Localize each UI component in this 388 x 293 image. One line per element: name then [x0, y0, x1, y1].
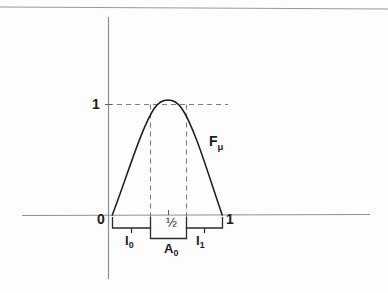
- axis-label-origin-zero: 0: [97, 212, 105, 226]
- page-top-rule: [0, 7, 388, 9]
- interval-label-A0-subscript: 0: [173, 248, 178, 258]
- interval-label-I0: I0: [125, 234, 134, 247]
- interval-label-A0-base: A: [164, 241, 173, 256]
- interval-label-A0: A0: [164, 242, 178, 255]
- curve-f-mu: [112, 100, 222, 215]
- axis-label-y-one: 1: [92, 97, 100, 111]
- interval-label-I0-subscript: 0: [129, 240, 134, 250]
- bracket-interval-I0: [113, 217, 151, 228]
- curve-label-f-mu: Fμ: [209, 134, 223, 148]
- x-axis: [22, 215, 370, 216]
- diagram-svg: [0, 0, 388, 293]
- interval-label-I1: I1: [196, 234, 205, 247]
- interval-label-I1-subscript: 1: [200, 240, 205, 250]
- curve-label-f-mu-subscript: μ: [218, 141, 224, 152]
- axis-label-x-half: ½: [166, 216, 177, 229]
- curve-label-f-mu-base: F: [209, 133, 218, 149]
- bracket-interval-I1: [187, 217, 223, 228]
- axis-label-x-one: 1: [226, 212, 234, 226]
- figure-canvas: 1 0 ½ 1 I0 A0 I1 Fμ: [0, 0, 388, 293]
